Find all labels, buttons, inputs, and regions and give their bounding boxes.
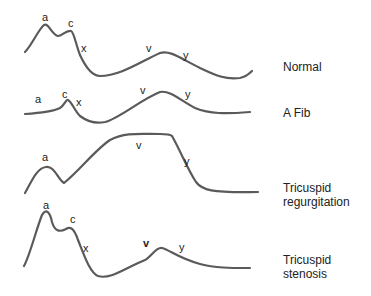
normal-waveform xyxy=(25,25,252,79)
afib-c-label: c xyxy=(62,89,68,100)
normal-v-label: v xyxy=(146,43,152,54)
afib-a-label: a xyxy=(35,94,41,105)
normal-y-label: y xyxy=(183,50,189,61)
afib-caption: A Fib xyxy=(283,106,310,120)
afib-v-label: v xyxy=(140,85,146,96)
jvp-waveforms-diagram xyxy=(0,0,371,296)
tr-caption-line2: regurgitation xyxy=(283,195,350,209)
ts-y-label: y xyxy=(179,242,185,253)
ts-caption-line2: stenosis xyxy=(283,267,327,281)
afib-waveform xyxy=(25,92,250,123)
normal-x-label: x xyxy=(81,43,87,54)
afib-x-label: x xyxy=(76,97,82,108)
tr-a-label: a xyxy=(42,152,48,163)
normal-a-label: a xyxy=(42,12,48,23)
normal-c-label: c xyxy=(68,18,74,29)
tr-v-label: v xyxy=(136,140,142,151)
tricuspid-stenosis-waveform xyxy=(24,211,250,276)
tr-caption-line1: Tricuspid xyxy=(283,181,331,195)
afib-y-label: y xyxy=(185,89,191,100)
ts-caption-line1: Tricuspid xyxy=(283,253,331,267)
ts-c-label: c xyxy=(70,214,76,225)
ts-a-label: a xyxy=(43,200,49,211)
ts-v-label: v xyxy=(143,238,149,249)
normal-caption: Normal xyxy=(283,60,322,74)
tr-y-label: y xyxy=(184,156,190,167)
ts-x-label: x xyxy=(83,243,89,254)
